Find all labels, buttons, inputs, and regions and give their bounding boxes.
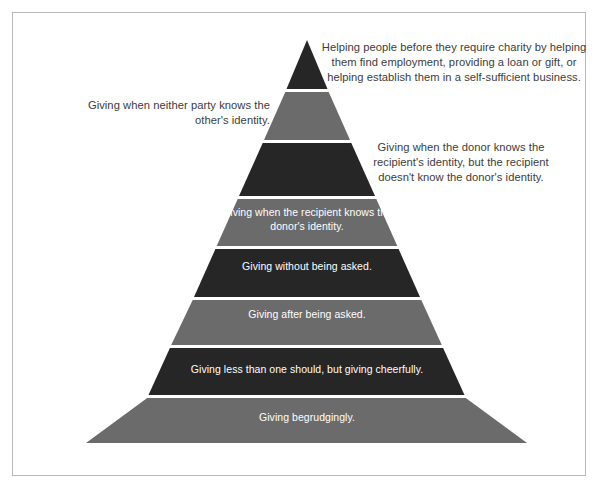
- tier-6-label: Giving after being asked.: [150, 307, 464, 321]
- tier-2-callout-line-2: other's identity.: [62, 113, 270, 128]
- tier-1-callout-line-2: them find employment, providing a loan o…: [318, 55, 590, 70]
- tier-1-callout-line-3: helping establish them in a self-suffici…: [318, 70, 590, 85]
- tier-5-label: Giving without being asked.: [170, 259, 444, 273]
- tier-2-callout-line-1: Giving when neither party knows the: [62, 98, 270, 113]
- pyramid-tier-2: [264, 92, 350, 140]
- tier-7-label: Giving less than one should, but giving …: [130, 362, 484, 376]
- tier-3-callout-line-1: Giving when the donor knows the: [352, 140, 570, 155]
- tier-4-label-line-2: donor's identity.: [190, 219, 424, 233]
- tier-1-callout: Helping people before they require chari…: [318, 40, 590, 86]
- tier-3-callout-line-2: recipient's identity, but the recipient: [352, 155, 570, 170]
- tier-4-label-line-1: Giving when the recipient knows the: [190, 205, 424, 219]
- tier-4-label: Giving when the recipient knows the dono…: [190, 205, 424, 233]
- tier-2-callout: Giving when neither party knows the othe…: [62, 98, 270, 128]
- diagram-page: Helping people before they require chari…: [0, 0, 607, 491]
- pyramid-diagram: Helping people before they require chari…: [0, 0, 607, 491]
- tier-3-callout: Giving when the donor knows the recipien…: [352, 140, 570, 186]
- tier-1-callout-line-1: Helping people before they require chari…: [318, 40, 590, 55]
- pyramid-tier-5: [194, 249, 420, 297]
- tier-3-callout-line-3: doesn't know the donor's identity.: [352, 170, 570, 185]
- tier-8-label: Giving begrudgingly.: [100, 410, 514, 424]
